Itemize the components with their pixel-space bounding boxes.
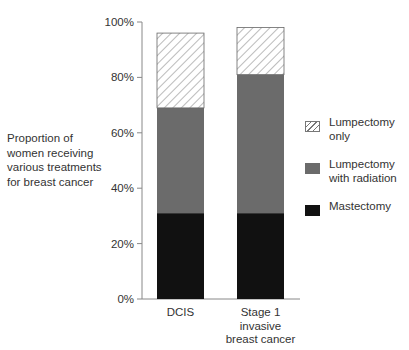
legend-swatch <box>305 163 320 174</box>
y-tick-label: 80% <box>111 71 134 83</box>
legend-label: Lumpectomyonly <box>329 115 404 143</box>
bar-segment <box>157 213 204 299</box>
bar-segment <box>157 33 204 108</box>
bar-1 <box>237 28 284 299</box>
bar-segment <box>237 28 284 75</box>
bar-segment <box>237 213 284 299</box>
y-tick-label: 100% <box>105 16 134 28</box>
legend-item: Mastectomy <box>305 199 404 216</box>
bars <box>157 28 284 299</box>
legend-label: Lumpectomywith radiation <box>329 157 404 185</box>
bar-segment <box>157 108 204 213</box>
bar-segment <box>237 75 284 214</box>
y-tick-label: 40% <box>111 182 134 194</box>
x-tick-label: Stage 1 <box>241 306 281 318</box>
legend-item: Lumpectomywith radiation <box>305 157 404 185</box>
y-tick-label: 0% <box>117 293 134 305</box>
y-tick-label: 60% <box>111 127 134 139</box>
x-tick-label: breast cancer <box>226 333 296 345</box>
legend-label: Mastectomy <box>329 199 404 213</box>
x-axis-labels: DCISStage 1invasivebreast cancer <box>167 306 296 345</box>
bar-0 <box>157 33 204 299</box>
y-tick-label: 20% <box>111 238 134 250</box>
legend: LumpectomyonlyLumpectomywith radiationMa… <box>305 115 404 230</box>
legend-swatch <box>305 205 320 216</box>
legend-swatch <box>305 121 320 132</box>
y-axis-title: Proportion ofwomen receivingvarious trea… <box>7 131 102 189</box>
x-tick-label: invasive <box>240 320 282 332</box>
x-tick-label: DCIS <box>167 306 195 318</box>
legend-item: Lumpectomyonly <box>305 115 404 143</box>
